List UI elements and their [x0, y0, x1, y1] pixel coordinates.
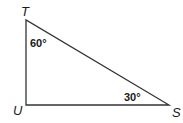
vertex-label-u: U	[13, 103, 23, 118]
angle-label-t: 60°	[30, 37, 47, 49]
angle-label-s: 30°	[124, 91, 141, 103]
vertex-label-t: T	[21, 4, 30, 19]
triangle-diagram: T U S 60° 30°	[0, 0, 183, 123]
triangle-tus	[26, 20, 169, 105]
vertex-label-s: S	[172, 105, 181, 120]
